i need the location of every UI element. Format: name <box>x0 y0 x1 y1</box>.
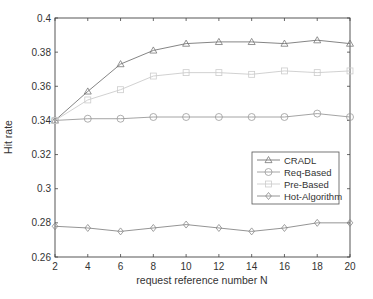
series-cradl <box>52 37 354 123</box>
x-tick-label: 12 <box>213 261 225 272</box>
legend-label: CRADL <box>284 155 316 166</box>
x-tick-label: 4 <box>85 261 91 272</box>
x-axis-label: request reference number N <box>136 274 267 286</box>
series-hot-algorithm <box>52 219 353 235</box>
series-layer <box>52 37 354 235</box>
axes-box <box>55 18 350 257</box>
series-line <box>55 71 350 121</box>
y-tick-label: 0.32 <box>32 149 52 160</box>
y-tick-label: 0.3 <box>37 183 51 194</box>
x-tick-label: 20 <box>344 261 356 272</box>
x-tick-label: 6 <box>118 261 124 272</box>
legend-label: Hot-Algorithm <box>284 191 342 202</box>
x-tick-label: 2 <box>52 261 58 272</box>
x-tick-label: 10 <box>181 261 193 272</box>
legend-label: Pre-Based <box>284 179 329 190</box>
series-line <box>55 40 350 120</box>
series-line <box>55 114 350 121</box>
legend-label: Req-Based <box>284 167 332 178</box>
y-tick-label: 0.38 <box>32 47 52 58</box>
legend: CRADLReq-BasedPre-BasedHot-Algorithm <box>252 152 342 204</box>
x-tick-label: 8 <box>151 261 157 272</box>
y-axis-label: Hit rate <box>2 120 14 154</box>
y-tick-label: 0.4 <box>37 13 51 24</box>
y-tick-label: 0.26 <box>32 252 52 263</box>
x-tick-label: 14 <box>246 261 258 272</box>
y-tick-label: 0.36 <box>32 81 52 92</box>
line-chart: 24681012141618200.260.280.30.320.340.360… <box>0 0 373 299</box>
x-tick-label: 18 <box>312 261 324 272</box>
series-line <box>55 223 350 232</box>
y-tick-label: 0.28 <box>32 217 52 228</box>
legend-item: Req-Based <box>257 167 332 178</box>
y-tick-label: 0.34 <box>32 115 52 126</box>
axes: 24681012141618200.260.280.30.320.340.360… <box>32 13 356 273</box>
series-pre-based <box>52 68 353 123</box>
series-req-based <box>52 110 354 124</box>
x-tick-label: 16 <box>279 261 291 272</box>
